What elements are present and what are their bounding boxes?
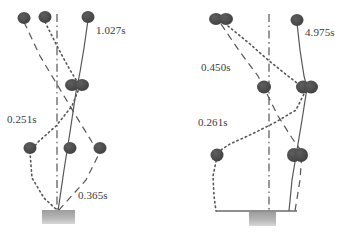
left-panel-support-base [42,210,75,224]
figure-svg-canvas [0,0,343,235]
right-panel-support-base [249,212,276,226]
L-top-3-marker-dot [82,11,95,23]
right-label-mid: 0.450s [201,62,231,73]
L-mid-2-marker-dot [75,79,89,91]
R-low-3-marker-dot [294,148,308,162]
right-label-bottom: 0.261s [198,117,228,128]
L-top-1-marker-dot [18,12,31,24]
L-low-3-marker-dot [94,142,107,154]
R-solid-path [289,23,307,211]
R-mid-1-marker-dot [257,81,271,94]
right-label-top: 4.975s [305,27,335,38]
L-low-2-marker-dot [64,142,77,154]
left-label-mid: 0.251s [7,114,37,125]
R-low-1-marker-dot [211,149,224,162]
R-mid-3-marker-dot [304,81,318,94]
R-top-3-marker-dot [291,14,304,26]
pendulum-figure-root: 1.027s 0.251s 0.365s 4.975s 0.450s 0.261… [0,0,343,235]
L-top-2-marker-dot [39,11,52,23]
R-dashed-path [221,24,302,211]
R-top-2-marker-dot [219,13,233,25]
left-label-bottom: 0.365s [78,190,108,201]
left-label-top: 1.027s [96,25,126,36]
L-low-1-marker-dot [24,142,37,154]
